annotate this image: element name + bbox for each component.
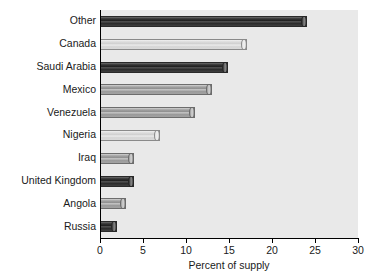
- bar: [100, 176, 134, 187]
- x-axis-tick-label: 10: [180, 244, 192, 256]
- x-axis-tick: [358, 238, 359, 243]
- bar-end-cap: [206, 84, 212, 95]
- bar-end-cap: [120, 198, 126, 209]
- x-axis-tick-label: 25: [309, 244, 321, 256]
- y-axis-tick-label: Venezuela: [0, 107, 96, 118]
- bar-end-cap: [189, 107, 195, 118]
- y-axis-category-labels: OtherCanadaSaudi ArabiaMexicoVenezuelaNi…: [0, 10, 96, 238]
- bar: [100, 130, 160, 141]
- y-axis-tick-label: Other: [0, 15, 96, 26]
- bar: [100, 62, 228, 73]
- y-axis-tick-label: Canada: [0, 38, 96, 49]
- y-axis-tick-label: Iraq: [0, 152, 96, 163]
- y-axis-tick-label: Saudi Arabia: [0, 61, 96, 72]
- y-axis-tick-label: Mexico: [0, 84, 96, 95]
- bars-layer: [100, 10, 358, 238]
- y-axis-tick-label: Nigeria: [0, 129, 96, 140]
- y-axis-line: [100, 10, 101, 238]
- bar: [100, 153, 134, 164]
- bar-end-cap: [222, 62, 228, 73]
- y-axis-tick-label: Angola: [0, 198, 96, 209]
- bar-end-cap: [301, 16, 307, 27]
- x-axis-tick: [186, 238, 187, 243]
- x-axis-tick-label: 20: [266, 244, 278, 256]
- y-axis-tick-label: Russia: [0, 221, 96, 232]
- clipped-title-remnant: [100, 0, 358, 6]
- x-axis-title: Percent of supply: [100, 259, 358, 271]
- x-axis-tick: [229, 238, 230, 243]
- x-axis-tick: [143, 238, 144, 243]
- bar: [100, 198, 126, 209]
- x-axis-tick-label: 5: [140, 244, 146, 256]
- bar: [100, 16, 307, 27]
- bar-end-cap: [154, 130, 160, 141]
- x-axis-tick: [315, 238, 316, 243]
- x-axis-tick-label: 15: [223, 244, 235, 256]
- bar: [100, 107, 195, 118]
- x-axis-tick-label: 0: [97, 244, 103, 256]
- bar-end-cap: [128, 176, 134, 187]
- bar-end-cap: [128, 153, 134, 164]
- bar: [100, 221, 117, 232]
- x-axis-tick: [100, 238, 101, 243]
- bar-end-cap: [111, 221, 117, 232]
- x-axis-tick-label: 30: [352, 244, 364, 256]
- bar-chart: OtherCanadaSaudi ArabiaMexicoVenezuelaNi…: [0, 0, 376, 275]
- y-axis-tick-label: United Kingdom: [0, 175, 96, 186]
- x-axis-tick: [272, 238, 273, 243]
- bar-end-cap: [241, 39, 247, 50]
- bar: [100, 84, 212, 95]
- bar: [100, 39, 247, 50]
